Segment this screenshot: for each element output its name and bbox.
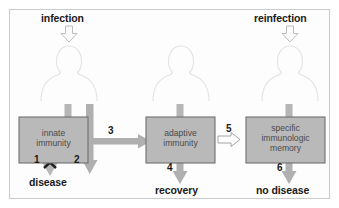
down-arrow-outline-icon — [282, 26, 298, 42]
box-label-innate-immunity: innate immunity — [19, 128, 88, 148]
label-infection: infection — [41, 13, 84, 24]
label-recovery: recovery — [155, 185, 198, 196]
step-number-6: 6 — [277, 163, 283, 173]
box-label-immunologic-memory: specific immunologic memory — [246, 123, 325, 154]
label-reinfection: reinfection — [254, 13, 307, 24]
person-silhouette-icon — [262, 46, 318, 101]
person-silhouette-icon — [41, 46, 97, 101]
down-arrow-outline-icon — [61, 26, 77, 42]
step-number-1: 1 — [34, 155, 40, 165]
label-no-disease: no disease — [256, 185, 309, 196]
immunity-flow-diagram: infection reinfection innate immunity ad… — [0, 0, 339, 208]
step-number-4: 4 — [167, 163, 173, 173]
box-label-adaptive-immunity: adaptive immunity — [146, 128, 215, 148]
arrow-5-adaptive-to-memory — [218, 133, 240, 147]
connector-person-to-memory — [286, 104, 293, 118]
arrow-3-innate-to-adaptive — [88, 134, 151, 149]
arrow-6-to-no-disease — [282, 163, 297, 184]
step-number-2: 2 — [74, 155, 80, 165]
step-number-5: 5 — [226, 124, 232, 134]
label-disease: disease — [29, 177, 67, 188]
arrow-4-to-recovery — [173, 163, 188, 184]
connector-person-to-adaptive — [177, 104, 184, 118]
connector-person-to-innate — [65, 104, 72, 118]
person-silhouette-icon — [153, 46, 209, 101]
step-number-3: 3 — [108, 126, 114, 136]
